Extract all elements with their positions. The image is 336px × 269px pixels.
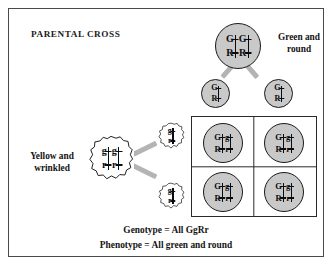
offspring-cell-3: G R g r bbox=[203, 172, 243, 212]
caption-genotype: Genotype = All GgRr bbox=[9, 225, 323, 235]
offspring-cell-1: G R g r bbox=[203, 123, 243, 163]
parent-cell-yellow-wrinkled: g r g r bbox=[88, 135, 134, 181]
chromosome-bar-icon bbox=[291, 183, 292, 202]
parent-cell-green-round: G R G R bbox=[215, 23, 261, 69]
caption-phenotype: Phenotype = All green and round bbox=[9, 240, 323, 250]
chromosome-bar-icon bbox=[218, 86, 219, 102]
punnett-square-grid: G R g r bbox=[191, 116, 317, 217]
gamete-cell-GR-right: G R bbox=[264, 79, 293, 108]
chromosome-pair-2: g r bbox=[112, 146, 121, 170]
chromosome-pair-2: g r bbox=[225, 133, 232, 153]
chromosome-bar-icon bbox=[230, 134, 231, 153]
chromosome-single: G R bbox=[274, 84, 283, 103]
label-line-2: wrinkled bbox=[15, 162, 89, 174]
label-yellow-and-wrinkled: Yellow and wrinkled bbox=[15, 150, 89, 175]
chromosome-pair-1: G R bbox=[214, 133, 223, 153]
chromosome-pair-1: G R bbox=[226, 34, 237, 58]
page-title: PARENTAL CROSS bbox=[31, 29, 120, 39]
gamete-cell-GR-left: G R bbox=[201, 79, 230, 108]
chromosome-pair-1: g r bbox=[102, 146, 111, 170]
chromosome-bar-icon bbox=[291, 134, 292, 153]
connector-left-parent-to-gamete-lower bbox=[132, 163, 157, 179]
label-line-1: Yellow and bbox=[15, 150, 89, 162]
chromosome-pair-2: G R bbox=[239, 34, 250, 58]
label-line-1: Green and bbox=[261, 31, 336, 43]
chromosome-bar-icon bbox=[230, 183, 231, 202]
chromosome-bar-icon bbox=[222, 134, 223, 153]
chromosome-pair-2: g r bbox=[286, 182, 293, 202]
chromosome-bar-icon bbox=[118, 147, 120, 170]
chromosome-bar-icon bbox=[248, 35, 250, 58]
chromosome-pair-2: g r bbox=[225, 182, 232, 202]
chromosome-bar-icon bbox=[283, 134, 284, 153]
offspring-cell-4: G R g r bbox=[264, 172, 304, 212]
gamete-cell-gr-lower: g r bbox=[157, 182, 185, 210]
chromosome-pair-2: g r bbox=[286, 133, 293, 153]
chromosome-single: g r bbox=[168, 187, 174, 206]
chromosome-bar-icon bbox=[108, 147, 110, 170]
chromosome-bar-icon bbox=[172, 128, 173, 144]
gamete-cell-gr-upper: g r bbox=[157, 122, 185, 150]
chromosome-pair-1: G R bbox=[275, 182, 284, 202]
chromosome-bar-icon bbox=[281, 86, 282, 102]
chromosome-bar-icon bbox=[283, 183, 284, 202]
punnett-square-figure: PARENTAL CROSS G R G R bbox=[0, 0, 336, 269]
figure-frame: PARENTAL CROSS G R G R bbox=[8, 8, 324, 257]
chromosome-bar-icon bbox=[172, 188, 173, 204]
grid-horizontal-divider bbox=[192, 166, 316, 167]
label-green-and-round: Green and round bbox=[261, 31, 336, 56]
chromosome-single: G R bbox=[211, 84, 220, 103]
offspring-cell-2: G R g r bbox=[264, 123, 304, 163]
chromosome-pair-1: G R bbox=[214, 182, 223, 202]
connector-left-parent-to-gamete-upper bbox=[132, 141, 157, 157]
chromosome-single: g r bbox=[168, 127, 174, 146]
chromosome-bar-icon bbox=[222, 183, 223, 202]
label-line-2: round bbox=[261, 43, 336, 55]
chromosome-pair-1: G R bbox=[275, 133, 284, 153]
chromosome-bar-icon bbox=[235, 35, 237, 58]
